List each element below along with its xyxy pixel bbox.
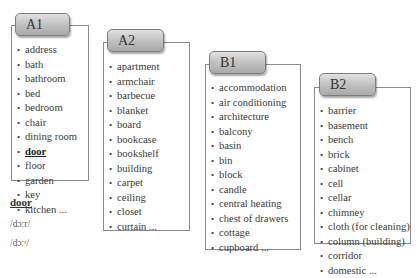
bullet-icon: • — [211, 126, 219, 140]
word-label: chimney — [328, 207, 364, 218]
word-item[interactable]: •address — [17, 43, 77, 58]
word-item[interactable]: •bin — [211, 154, 288, 169]
bullet-icon: • — [109, 76, 117, 90]
bullet-icon: • — [211, 242, 219, 256]
word-item[interactable]: •barrier — [320, 104, 410, 119]
level-label: B2 — [330, 77, 346, 92]
word-label: building — [117, 163, 152, 174]
bullet-icon: • — [320, 105, 328, 119]
word-item[interactable]: •chest of drawers — [211, 212, 288, 227]
word-item[interactable]: •bench — [320, 133, 410, 148]
word-item[interactable]: •bath — [17, 58, 77, 73]
word-item[interactable]: •dining room — [17, 130, 77, 145]
word-label: blanket — [117, 105, 148, 116]
headword[interactable]: door — [10, 196, 32, 208]
word-label: cell — [328, 178, 343, 189]
bullet-icon: • — [320, 192, 328, 206]
word-item[interactable]: •armchair — [109, 75, 159, 90]
word-item[interactable]: •cell — [320, 177, 410, 192]
word-label: accommodation — [219, 82, 287, 93]
word-label: cottage — [219, 227, 250, 238]
word-item[interactable]: •building — [109, 162, 159, 177]
bullet-icon: • — [211, 111, 219, 125]
word-item[interactable]: •bookcase — [109, 133, 159, 148]
word-item[interactable]: •barbecue — [109, 89, 159, 104]
word-item[interactable]: •bathroom — [17, 72, 77, 87]
bullet-icon: • — [109, 206, 117, 220]
word-label: cupboard ... — [219, 242, 269, 253]
word-label: address — [25, 44, 57, 55]
word-item[interactable]: •floor — [17, 159, 77, 174]
word-label: ceiling — [117, 192, 146, 203]
bullet-icon: • — [320, 163, 328, 177]
pronunciation-us: /dɔːr/ — [10, 219, 30, 229]
bullet-icon: • — [17, 102, 25, 116]
word-item[interactable]: •cabinet — [320, 162, 410, 177]
word-label: domestic ... — [328, 265, 377, 276]
word-item[interactable]: •air conditioning — [211, 96, 288, 111]
word-label: chest of drawers — [219, 213, 288, 224]
bullet-icon: • — [109, 90, 117, 104]
word-item[interactable]: •carpet — [109, 176, 159, 191]
level-tab-a1[interactable]: A1 — [15, 13, 70, 36]
word-item[interactable]: •door — [17, 145, 77, 160]
word-item[interactable]: •chair — [17, 116, 77, 131]
word-item[interactable]: •block — [211, 168, 288, 183]
word-item[interactable]: •architecture — [211, 110, 288, 125]
bullet-icon: • — [17, 59, 25, 73]
word-item[interactable]: •blanket — [109, 104, 159, 119]
word-label: dining room — [25, 131, 77, 142]
word-label: cabinet — [328, 163, 359, 174]
word-item[interactable]: •cupboard ... — [211, 241, 288, 256]
word-item[interactable]: •cloth (for cleaning) — [320, 220, 410, 235]
level-tab-b2[interactable]: B2 — [319, 73, 376, 96]
word-item[interactable]: •central heating — [211, 197, 288, 212]
word-item[interactable]: •closet — [109, 205, 159, 220]
word-label: closet — [117, 206, 142, 217]
word-item[interactable]: •board — [109, 118, 159, 133]
word-item[interactable]: •cellar — [320, 191, 410, 206]
word-item[interactable]: •domestic ... — [320, 264, 410, 278]
word-label: board — [117, 119, 141, 130]
word-item[interactable]: •cottage — [211, 226, 288, 241]
bullet-icon: • — [320, 207, 328, 221]
word-label: bin — [219, 155, 233, 166]
word-item[interactable]: •apartment — [109, 60, 159, 75]
word-list-b2: •barrier•basement•bench•brick•cabinet•ce… — [320, 104, 410, 278]
word-item[interactable]: •brick — [320, 148, 410, 163]
word-label: basement — [328, 120, 368, 131]
word-item[interactable]: •column (building) — [320, 235, 410, 250]
bullet-icon: • — [320, 134, 328, 148]
level-tab-a2[interactable]: A2 — [107, 29, 164, 52]
word-label: barbecue — [117, 90, 155, 101]
level-tab-b1[interactable]: B1 — [209, 51, 266, 74]
bullet-icon: • — [17, 131, 25, 145]
bullet-icon: • — [17, 146, 25, 160]
word-list-a2: •apartment•armchair•barbecue•blanket•boa… — [109, 60, 159, 234]
word-label: block — [219, 169, 243, 180]
bullet-icon: • — [211, 140, 219, 154]
bullet-icon: • — [17, 160, 25, 174]
word-item[interactable]: •candle — [211, 183, 288, 198]
word-item[interactable]: •accommodation — [211, 81, 288, 96]
word-item[interactable]: •basin — [211, 139, 288, 154]
word-item[interactable]: •bookshelf — [109, 147, 159, 162]
word-item[interactable]: •bedroom — [17, 101, 77, 116]
word-label: architecture — [219, 111, 269, 122]
bullet-icon: • — [109, 105, 117, 119]
word-item[interactable]: •garden — [17, 174, 77, 189]
level-label: A2 — [118, 33, 135, 48]
word-label: column (building) — [328, 236, 405, 247]
word-item[interactable]: •corridor — [320, 249, 410, 264]
word-item[interactable]: •basement — [320, 119, 410, 134]
word-item[interactable]: •chimney — [320, 206, 410, 221]
word-label: basin — [219, 140, 241, 151]
word-item[interactable]: •bed — [17, 87, 77, 102]
word-label: bookshelf — [117, 148, 159, 159]
word-item[interactable]: •curtain ... — [109, 220, 159, 235]
word-label: carpet — [117, 177, 143, 188]
word-item[interactable]: •ceiling — [109, 191, 159, 206]
bullet-icon: • — [109, 177, 117, 191]
bullet-icon: • — [109, 163, 117, 177]
word-item[interactable]: •balcony — [211, 125, 288, 140]
